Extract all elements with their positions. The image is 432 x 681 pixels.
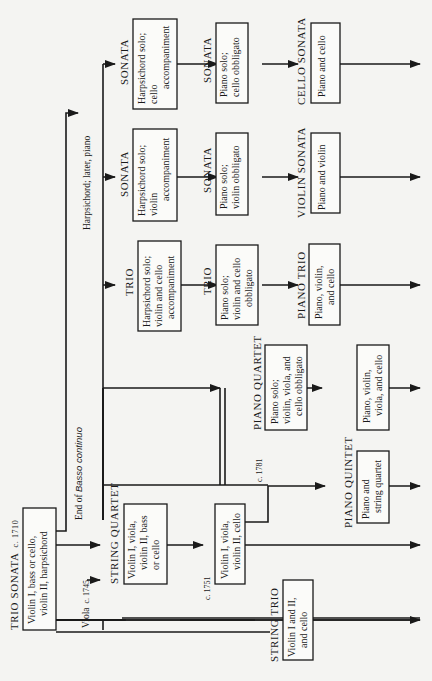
- annotation-end-basso-continuo: End of Basso continuo: [73, 427, 84, 520]
- node-trio-harpsichord: TRIO Harpsichord solo; violin and cello …: [123, 255, 176, 327]
- heading-trio-sonata: TRIO SONATA: [8, 552, 20, 630]
- heading-piano-quintet: PIANO QUINTET: [342, 436, 354, 528]
- svg-text:Piano and cello: Piano and cello: [316, 35, 327, 97]
- body-line: Violin I, bass or cello,: [26, 536, 37, 624]
- svg-text:violin, viola, and: violin, viola, and: [281, 356, 292, 424]
- heading-violin-sonata: VIOLIN SONATA: [295, 127, 307, 218]
- svg-text:cello obbligato: cello obbligato: [293, 356, 304, 416]
- heading-sonata: SONATA: [201, 37, 213, 83]
- svg-text:accompaniment: accompaniment: [160, 137, 171, 201]
- svg-text:End of Basso continuo: End of Basso continuo: [73, 427, 84, 520]
- svg-text:viola, and cello: viola, and cello: [373, 355, 384, 416]
- svg-text:accompaniment: accompaniment: [165, 255, 176, 319]
- node-trio-sonata: TRIO SONATAc. 1710 Violin I, bass or cel…: [8, 520, 49, 630]
- svg-text:cello: cello: [148, 85, 159, 104]
- svg-text:or cello: or cello: [150, 540, 161, 570]
- svg-text:violin: violin: [148, 193, 159, 216]
- chamber-music-evolution-diagram: TRIO SONATAc. 1710 Violin I, bass or cel…: [0, 0, 432, 681]
- svg-text:obbligato: obbligato: [243, 269, 254, 307]
- heading-piano-trio: PIANO TRIO: [295, 251, 307, 319]
- svg-text:violin II, cello: violin II, cello: [231, 513, 242, 570]
- svg-text:violin and cello: violin and cello: [153, 265, 164, 327]
- heading-piano-quartet: PIANO QUARTET: [251, 335, 263, 430]
- svg-text:Piano solo;: Piano solo;: [218, 52, 229, 97]
- svg-text:and cello: and cello: [298, 612, 309, 648]
- svg-text:violin obbligato: violin obbligato: [230, 145, 241, 209]
- svg-text:violin II, bass: violin II, bass: [138, 515, 149, 570]
- date-1710: c. 1710: [11, 520, 20, 548]
- svg-text:Violin I, viola,: Violin I, viola,: [126, 521, 137, 579]
- heading-cello-sonata: CELLO SONATA: [295, 17, 307, 105]
- boxes: [23, 19, 389, 660]
- svg-text:Violin I and II,: Violin I and II,: [286, 598, 297, 657]
- svg-text:Piano, violin,: Piano, violin,: [361, 369, 372, 423]
- svg-text:c. 1751: c. 1751: [203, 576, 212, 600]
- heading-sonata: SONATA: [201, 147, 213, 193]
- annotation-viola-1745: Violac. 1745: [81, 580, 91, 628]
- svg-text:and cello: and cello: [325, 269, 336, 305]
- heading-sonata: SONATA: [118, 39, 130, 85]
- svg-text:Harpsichord solo;: Harpsichord solo;: [136, 144, 147, 216]
- annotation-date-1751: c. 1751: [203, 576, 212, 600]
- svg-text:Piano and: Piano and: [360, 479, 371, 519]
- svg-text:Piano, violin,: Piano, violin,: [313, 265, 324, 319]
- heading-string-quartet: STRING QUARTET: [108, 482, 120, 584]
- annotation-date-1781: c. 1781: [255, 458, 264, 482]
- node-string-quartet-1751: Violin I, viola, violin II, cello: [219, 513, 242, 579]
- heading-string-trio: STRING TRIO: [268, 587, 280, 662]
- svg-text:Piano solo;: Piano solo;: [219, 275, 230, 320]
- svg-text:cello obbligato: cello obbligato: [230, 37, 241, 97]
- svg-text:accompaniment: accompaniment: [160, 25, 171, 89]
- svg-text:c. 1781: c. 1781: [255, 458, 264, 482]
- svg-text:Piano solo;: Piano solo;: [218, 164, 229, 209]
- body-line: violin II, harpsichord: [38, 531, 49, 616]
- heading-trio: TRIO: [123, 268, 135, 296]
- annotation-harpsichord-later-piano: Harpsichord; later, piano: [82, 135, 92, 230]
- svg-text:Violac. 1745: Violac. 1745: [81, 580, 91, 628]
- svg-text:Harpsichord solo;: Harpsichord solo;: [141, 255, 152, 327]
- svg-text:TRIO SONATAc. 1710: TRIO SONATAc. 1710: [8, 520, 20, 630]
- heading-sonata: SONATA: [118, 151, 130, 197]
- svg-text:Harpsichord solo;: Harpsichord solo;: [136, 32, 147, 104]
- arrow-to-piano-quintet: [243, 486, 325, 522]
- heading-trio: TRIO: [201, 267, 213, 295]
- svg-text:Piano and violin: Piano and violin: [316, 144, 327, 210]
- svg-text:violin and cello: violin and cello: [231, 258, 242, 320]
- svg-text:Piano solo;: Piano solo;: [269, 379, 280, 424]
- svg-text:string quartet: string quartet: [372, 460, 383, 513]
- svg-text:Harpsichord; later, piano: Harpsichord; later, piano: [82, 135, 92, 230]
- svg-text:Violin I, viola,: Violin I, viola,: [219, 521, 230, 579]
